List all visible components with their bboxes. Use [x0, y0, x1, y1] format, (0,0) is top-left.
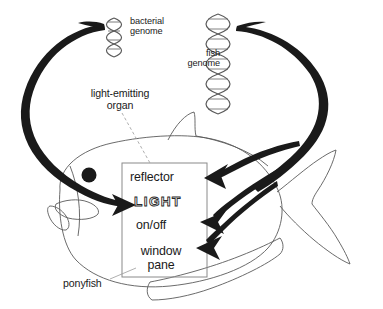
label-fish-genome: fish genome — [170, 48, 220, 69]
bacterial-genome-helix — [107, 18, 122, 57]
pectoral-fin-path — [55, 200, 98, 220]
organ-component-window-pane: window pane — [128, 245, 194, 273]
fish-eye — [82, 168, 97, 183]
label-bacterial-genome: bacterial genome — [130, 16, 164, 37]
arrow-to-reflector-head — [204, 164, 228, 189]
gill-line-path — [70, 166, 80, 236]
label-ponyfish: ponyfish — [63, 278, 102, 290]
organ-leader-line — [122, 113, 150, 163]
arrow-bacterial-to-light — [21, 22, 136, 216]
pectoral-fin-inner-path — [48, 206, 69, 230]
figure-canvas: bacterial genome fish genome light-emitt… — [0, 0, 383, 309]
organ-component-reflector: reflector — [130, 171, 174, 185]
ponyfish-outline — [48, 112, 350, 300]
organ-component-light: LIGHT — [134, 194, 182, 209]
label-light-emitting-organ: light-emitting organ — [70, 88, 170, 112]
organ-component-on-off: on/off — [136, 219, 166, 233]
